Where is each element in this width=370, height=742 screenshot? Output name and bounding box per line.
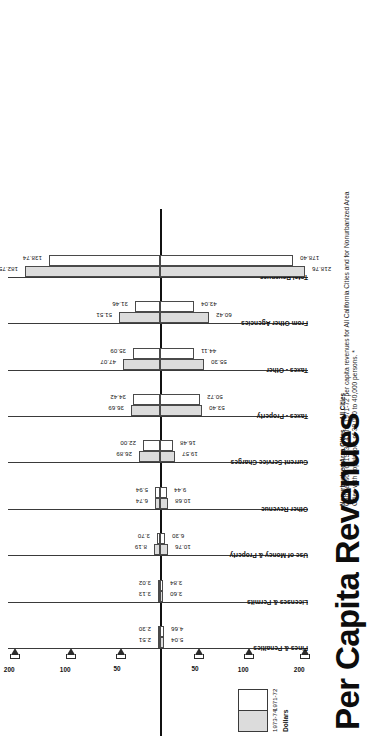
legend-swatch-1971-72: [238, 689, 268, 711]
axis-tick-left-200: 200: [15, 649, 16, 742]
bar-1971-72-nonurbanized: [143, 440, 160, 451]
axis-tick-left-100: 100: [71, 649, 72, 742]
bar-value-label: 10.68: [175, 497, 191, 504]
bar-value-label: 36.69: [109, 404, 125, 411]
bar-1971-72-nonurbanized: [135, 301, 160, 312]
bar-value-label: 218.76: [312, 265, 331, 272]
category-row: Licenses & Permits3.133.023.603.84: [8, 602, 308, 603]
rotated-figure-container: 2001005050100200 1973-74 1971-72 Dollars…: [0, 0, 370, 742]
plot-area: Fines & Penalties2.512.305.044.66License…: [8, 209, 308, 649]
bar-1971-72-nonurbanized: [133, 394, 160, 405]
axis-units-label: Dollars: [282, 710, 289, 732]
bar-1971-72-all-cities: [160, 626, 164, 637]
bar-1973-74-nonurbanized: [25, 266, 160, 277]
bar-value-label: 60.42: [216, 311, 232, 318]
bar-value-label: 10.76: [175, 543, 191, 550]
figure: 2001005050100200 1973-74 1971-72 Dollars…: [0, 0, 370, 742]
bar-1973-74-nonurbanized: [139, 451, 160, 462]
category-row: Fines & Penalties2.512.305.044.66: [8, 648, 308, 649]
bar-1973-74-nonurbanized: [119, 312, 160, 323]
bar-value-label: 4.66: [171, 625, 183, 632]
bar-value-label: 2.30: [139, 625, 151, 632]
bar-value-label: 50.72: [207, 393, 223, 400]
category-row: Taxes - Property36.6934.4253.4050.72: [8, 416, 308, 417]
bar-1971-72-nonurbanized: [49, 255, 160, 266]
category-row: Current Service Charges26.8922.0019.5716…: [8, 462, 308, 463]
bar-value-label: 6.74: [135, 497, 147, 504]
bar-value-label: 22.00: [120, 439, 136, 446]
bar-1973-74-all-cities: [160, 544, 168, 555]
legend-label-1971-72: 1971-72: [271, 689, 278, 711]
legend-swatch-1973-74: [238, 710, 268, 732]
page-title: Per Capita Revenues: [331, 413, 364, 730]
bar-value-label: 47.07: [101, 358, 117, 365]
bar-1973-74-all-cities: [160, 266, 305, 277]
category-row: Taxes - Other47.0735.0955.3044.11: [8, 370, 308, 371]
bar-1973-74-nonurbanized: [131, 405, 160, 416]
category-label: Taxes - Property: [257, 413, 308, 420]
category-label: Current Service Charges: [231, 459, 308, 466]
zero-axis-line: [160, 209, 162, 736]
category-label: Taxes - Other: [266, 367, 308, 374]
axis-tick-right-200: 200: [305, 649, 306, 742]
bar-value-label: 3.84: [170, 579, 182, 586]
bar-1971-72-all-cities: [160, 348, 194, 359]
bar-1971-72-nonurbanized: [133, 348, 160, 359]
bar-1973-74-all-cities: [160, 498, 168, 509]
bar-1973-74-all-cities: [160, 451, 175, 462]
legend: 1973-74 1971-72 Dollars: [238, 652, 300, 732]
bar-value-label: 9.44: [174, 486, 186, 493]
category-label: Use of Money & Property: [230, 552, 308, 559]
bar-value-label: 55.30: [211, 358, 227, 365]
category-label: Other Revenue: [261, 506, 308, 513]
bar-1971-72-all-cities: [160, 487, 167, 498]
bar-value-label: 16.48: [180, 439, 196, 446]
bar-1973-74-nonurbanized: [123, 359, 160, 370]
category-label: Licenses & Permits: [247, 599, 308, 606]
bar-value-label: 26.89: [116, 450, 132, 457]
axis-tick-right-50: 50: [199, 649, 200, 742]
bar-1973-74-all-cities: [160, 312, 209, 323]
category-row: From Other Agencies51.5131.4660.4243.04: [8, 323, 308, 324]
bar-value-label: 6.30: [172, 532, 184, 539]
bar-1971-72-all-cities: [160, 533, 165, 544]
chart-page: 2001005050100200 1973-74 1971-72 Dollars…: [0, 0, 370, 742]
bar-1971-72-all-cities: [160, 440, 173, 451]
bar-value-label: 3.60: [170, 590, 182, 597]
category-baseline: [8, 370, 308, 371]
bar-value-label: 8.19: [134, 543, 146, 550]
bar-value-label: 35.09: [110, 347, 126, 354]
bar-1973-74-all-cities: [160, 405, 202, 416]
bar-1971-72-all-cities: [160, 255, 293, 266]
bar-1971-72-all-cities: [160, 394, 200, 405]
axis-tick-label: 100: [60, 666, 71, 673]
bar-value-label: 5.94: [136, 486, 148, 493]
bar-value-label: 3.02: [138, 579, 150, 586]
bar-1973-74-all-cities: [160, 637, 164, 648]
bar-1973-74-all-cities: [160, 591, 163, 602]
bar-value-label: 19.57: [182, 450, 198, 457]
bar-1971-72-all-cities: [160, 580, 163, 591]
bar-value-label: 51.51: [97, 311, 113, 318]
bar-value-label: 31.46: [113, 300, 129, 307]
bar-1973-74-all-cities: [160, 359, 204, 370]
category-row: Other Revenue6.745.9410.689.44: [8, 509, 308, 510]
bar-value-label: 182.75: [0, 265, 18, 272]
axis-tick-label: 50: [191, 666, 198, 673]
bar-value-label: 3.13: [138, 590, 150, 597]
category-row: Use of Money & Property8.193.7010.766.30: [8, 555, 308, 556]
bar-value-label: 44.11: [201, 347, 216, 354]
bar-value-label: 5.04: [171, 636, 183, 643]
category-label: From Other Agencies: [241, 320, 308, 327]
bar-value-label: 178.40: [300, 254, 319, 261]
axis-tick-label: 50: [113, 666, 120, 673]
legend-label-1973-74: 1973-74: [271, 710, 278, 732]
category-label: Fines & Penalties: [253, 645, 308, 652]
bar-1971-72-all-cities: [160, 301, 194, 312]
bar-value-label: 138.74: [23, 254, 42, 261]
bar-value-label: 34.42: [110, 393, 126, 400]
axis-tick-label: 200: [4, 666, 15, 673]
bar-value-label: 43.04: [201, 300, 217, 307]
bar-value-label: 3.70: [138, 532, 150, 539]
bar-value-label: 2.51: [139, 636, 151, 643]
